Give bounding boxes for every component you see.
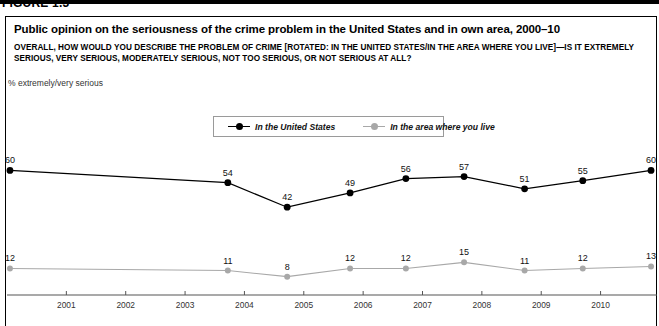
x-axis-tick-label: 2006 [354, 300, 373, 310]
x-axis-tick-label: 2007 [413, 300, 432, 310]
x-axis-tick-label: 2004 [235, 300, 254, 310]
data-point-label: 15 [459, 247, 469, 257]
data-point-label: 51 [520, 174, 530, 184]
x-axis-tick-label: 2001 [57, 300, 76, 310]
y-axis-note: % extremely/very serious [8, 78, 103, 89]
figure-number: FIGURE 1.3 [2, 0, 69, 10]
data-point-label: 12 [5, 253, 15, 263]
data-point-label: 57 [459, 162, 469, 172]
data-point-label: 60 [5, 155, 15, 165]
data-point-label: 49 [345, 178, 355, 188]
data-point-label: 56 [401, 164, 411, 174]
data-point-label: 60 [646, 155, 656, 165]
legend-label-own-area: In the area where you live [390, 122, 495, 132]
chart-legend: In the United States In the area where y… [213, 116, 444, 137]
survey-question: OVERALL, HOW WOULD YOU DESCRIBE THE PROB… [14, 42, 640, 64]
data-point-label: 11 [520, 256, 529, 266]
data-point-label: 12 [401, 253, 411, 263]
data-point-label: 12 [345, 253, 355, 263]
x-axis-tick-label: 2002 [116, 300, 135, 310]
data-point-label: 11 [223, 256, 232, 266]
x-axis-tick-label: 2009 [532, 300, 551, 310]
data-point-label: 8 [285, 262, 290, 272]
data-point-label: 13 [646, 251, 656, 261]
legend-label-united-states: In the United States [255, 122, 335, 132]
legend-item-united-states: In the United States [228, 122, 335, 132]
data-point-label: 54 [223, 168, 233, 178]
data-point-label: 42 [282, 192, 292, 202]
top-rule [0, 0, 659, 4]
x-axis-tick-label: 2008 [473, 300, 492, 310]
legend-item-own-area: In the area where you live [363, 122, 495, 132]
x-axis-tick-label: 2003 [176, 300, 195, 310]
data-point-label: 55 [578, 166, 588, 176]
legend-marker-us-icon [228, 122, 250, 132]
x-axis-tick-label: 2010 [591, 300, 610, 310]
data-point-label: 12 [578, 253, 588, 263]
x-axis-tick-label: 2005 [294, 300, 313, 310]
legend-marker-own-icon [363, 122, 385, 132]
page-title: Public opinion on the seriousness of the… [14, 22, 644, 36]
